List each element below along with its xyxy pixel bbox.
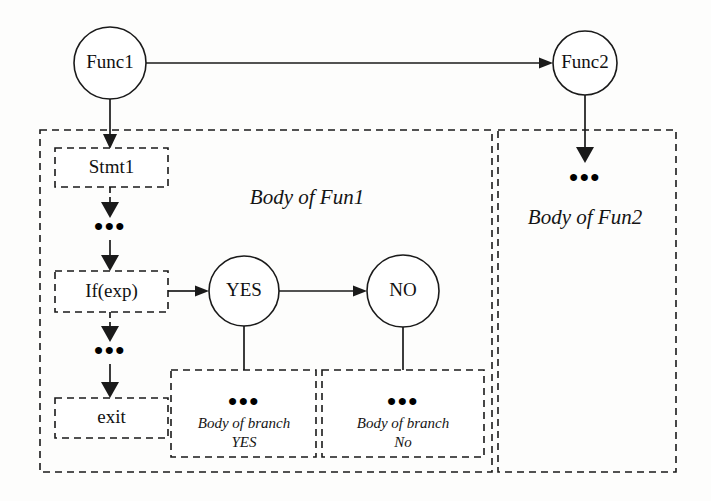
arrowhead-ifexp-to-yes xyxy=(195,286,209,297)
arrowhead-ellipsis-to-ifexp xyxy=(101,255,119,271)
arrowhead-func2-to-body xyxy=(576,147,594,163)
node-stmt1-label: Stmt1 xyxy=(89,156,134,177)
node-exit-label: exit xyxy=(97,406,126,427)
ellipsis-after-stmt1: ••• xyxy=(94,212,126,241)
ellipsis-in-no-body: ••• xyxy=(387,387,419,416)
branch-body-no-label-line1: Body of branch xyxy=(357,415,449,431)
branch-body-yes-label-line1: Body of branch xyxy=(198,415,290,431)
ellipsis-in-fun2: ••• xyxy=(569,163,601,192)
node-yes-label: YES xyxy=(226,279,262,300)
panel-body-of-fun2-label: Body of Fun2 xyxy=(528,205,643,229)
ellipsis-after-ifexp: ••• xyxy=(94,336,126,365)
arrowhead-func1-to-func2 xyxy=(539,58,553,69)
node-func2-label: Func2 xyxy=(561,51,609,72)
arrowhead-func1-to-stmt1 xyxy=(103,134,117,149)
node-ifexp-label: If(exp) xyxy=(85,280,138,302)
diagram-canvas: Stmt1 If(exp) exit ••• Body of branch YE… xyxy=(0,0,711,501)
branch-body-no-label-line2: No xyxy=(393,434,412,450)
arrowhead-ellipsis2-to-exit xyxy=(101,382,119,398)
panel-body-of-fun1-label: Body of Fun1 xyxy=(250,185,364,209)
node-no-label: NO xyxy=(389,279,416,300)
ellipsis-in-yes-body: ••• xyxy=(228,387,260,416)
arrowhead-yes-to-no xyxy=(353,286,367,297)
branch-body-yes-label-line2: YES xyxy=(231,434,257,450)
node-func1-label: Func1 xyxy=(86,51,134,72)
